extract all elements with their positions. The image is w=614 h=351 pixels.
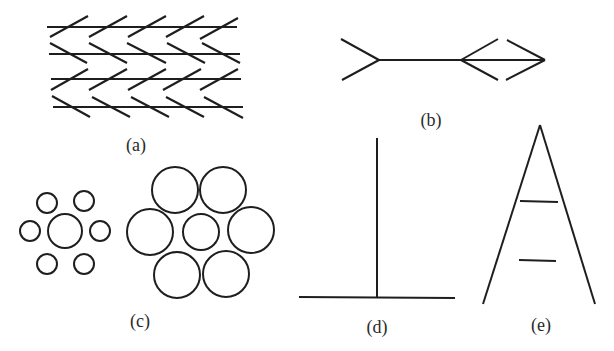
ebbinghaus-illusion-circle — [90, 221, 110, 241]
muller-lyer-illusion-line — [461, 60, 498, 80]
ebbinghaus-illusion-circle — [20, 221, 40, 241]
ebbinghaus-illusion-circle — [74, 254, 94, 274]
ebbinghaus-illusion-circle — [37, 193, 57, 213]
ponzo-illusion-line — [540, 125, 595, 304]
panel-e-ponzo — [483, 125, 595, 304]
muller-lyer-illusion-line — [507, 40, 545, 60]
muller-lyer-illusion-line — [506, 60, 545, 80]
illusions-figure — [0, 0, 614, 351]
ebbinghaus-illusion-circle — [203, 251, 249, 297]
ebbinghaus-illusion-circle — [48, 214, 82, 248]
label-a: (a) — [126, 135, 146, 156]
muller-lyer-illusion-line — [461, 39, 498, 60]
ponzo-illusion-line — [520, 201, 558, 202]
muller-lyer-illusion-line — [342, 60, 379, 80]
panel-b-muller-lyer — [341, 39, 545, 80]
ebbinghaus-illusion-circle — [127, 209, 173, 255]
muller-lyer-illusion-line — [341, 39, 379, 60]
ponzo-illusion-line — [483, 125, 540, 304]
zollner-illusion-line — [200, 18, 238, 39]
panel-d-vertical-horizontal — [299, 138, 455, 298]
ebbinghaus-illusion-circle — [228, 207, 274, 253]
ponzo-illusion-line — [519, 260, 556, 261]
ebbinghaus-illusion-circle — [154, 252, 200, 298]
ebbinghaus-illusion-circle — [37, 254, 57, 274]
ebbinghaus-illusion-circle — [200, 167, 246, 213]
ebbinghaus-illusion-circle — [183, 214, 219, 250]
label-d: (d) — [367, 317, 388, 338]
panel-c-ebbinghaus — [20, 167, 274, 298]
vertical-horizontal-illusion-line — [299, 297, 455, 298]
ebbinghaus-illusion-circle — [74, 191, 94, 211]
label-c: (c) — [130, 311, 150, 332]
label-e: (e) — [531, 315, 551, 336]
panel-a-zollner — [47, 16, 243, 118]
label-b: (b) — [421, 110, 442, 131]
ebbinghaus-illusion-circle — [152, 167, 198, 213]
